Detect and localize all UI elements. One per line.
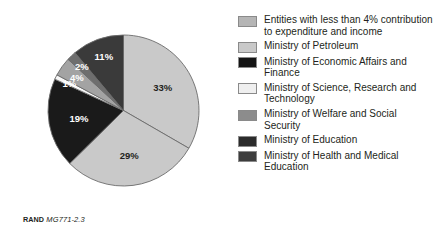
pie-slice-group <box>48 35 199 186</box>
legend-item[interactable]: Ministry of Education <box>238 134 434 147</box>
legend-item[interactable]: Entities with less than 4% contribution … <box>238 14 434 37</box>
pie-slice-label: 4% <box>70 72 84 83</box>
legend-item-label: Ministry of Education <box>264 134 357 146</box>
chart-legend: Entities with less than 4% contribution … <box>238 14 434 176</box>
legend-item[interactable]: Ministry of Economic Affairs and Finance <box>238 56 434 79</box>
legend-item[interactable]: Ministry of Welfare and Social Security <box>238 108 434 131</box>
legend-item-label: Ministry of Economic Affairs and Finance <box>264 56 434 79</box>
legend-swatch-icon <box>238 57 257 68</box>
legend-item[interactable]: Ministry of Petroleum <box>238 40 434 53</box>
legend-item-label: Ministry of Petroleum <box>264 40 358 52</box>
caption-figure-id: MG771-2.3 <box>46 215 84 224</box>
legend-swatch-icon <box>238 16 257 27</box>
legend-item-label: Ministry of Health and Medical Education <box>264 150 434 173</box>
legend-swatch-icon <box>238 110 257 121</box>
legend-item-label: Entities with less than 4% contribution … <box>264 14 434 37</box>
caption-rand-mark: RAND <box>23 215 44 224</box>
legend-item[interactable]: Ministry of Science, Research and Techno… <box>238 82 434 105</box>
legend-item-label: Ministry of Science, Research and Techno… <box>264 82 434 105</box>
pie-slice-label: 29% <box>120 150 140 161</box>
pie-chart-figure: 33%29%19%1%4%2%11% RAND MG771-2.3 Entiti… <box>0 0 437 244</box>
figure-caption: RAND MG771-2.3 <box>23 215 85 224</box>
pie-chart-plot-area: 33%29%19%1%4%2%11% <box>16 8 230 213</box>
pie-slice-label: 19% <box>69 113 89 124</box>
legend-swatch-icon <box>238 151 257 162</box>
legend-item-label: Ministry of Welfare and Social Security <box>264 108 434 131</box>
pie-slice-label: 11% <box>95 51 114 62</box>
pie-slice-label: 2% <box>75 61 89 72</box>
legend-item[interactable]: Ministry of Health and Medical Education <box>238 150 434 173</box>
pie-slice-label: 33% <box>153 82 173 93</box>
legend-swatch-icon <box>238 136 257 147</box>
legend-swatch-icon <box>238 83 257 94</box>
pie-chart-svg: 33%29%19%1%4%2%11% <box>16 8 230 213</box>
legend-swatch-icon <box>238 42 257 53</box>
